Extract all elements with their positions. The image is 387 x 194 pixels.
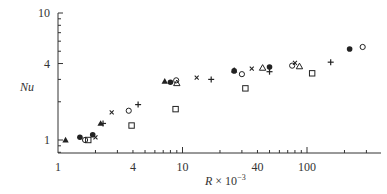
data-point-circle-filled [168,79,174,85]
x-axis-title: R × 10−3 [204,173,246,188]
y-axis-ticks [58,13,63,152]
data-point-cross-x [110,110,114,114]
nusselt-scatter-chart: 1410 141040100 Nu R × 10−3 [0,0,387,194]
data-point-square-open [129,123,134,128]
x-axis-title-rest: × 10 [212,174,237,188]
data-point-square-open [173,106,178,111]
x-tick-label: 100 [298,160,316,174]
x-tick-label: 40 [251,160,263,174]
data-point-square-open [243,86,248,91]
x-tick-label: 1 [55,160,61,174]
y-tick-label: 10 [38,6,50,20]
y-axis-title: Nu [19,80,34,94]
data-point-plus [328,59,334,65]
data-point-circle-filled [231,68,237,74]
data-point-circle-filled [77,135,83,141]
data-point-plus [135,102,141,108]
y-axis-tick-labels: 1410 [38,6,50,147]
x-axis-title-exp: −3 [237,173,246,182]
x-axis-tick-labels: 141040100 [55,160,316,174]
data-point-triangle-open [259,65,265,71]
data-point-circle-open [239,72,244,77]
x-tick-label: 4 [130,160,136,174]
data-point-circle-open [360,44,365,49]
axes [58,13,381,153]
data-point-triangle-open [296,63,302,69]
data-point-triangle-filled [62,137,68,143]
data-point-plus [208,76,214,82]
y-tick-label: 1 [44,133,50,147]
data-point-plus [267,69,273,75]
data-point-cross-x [250,67,254,71]
data-point-triangle-filled [162,78,168,84]
data-point-circle-open [126,108,131,113]
data-points [62,44,365,142]
data-point-square-open [309,71,314,76]
x-axis-ticks [95,147,366,153]
data-point-circle-filled [347,46,353,52]
data-point-cross-x [93,135,97,139]
y-tick-label: 4 [44,57,50,71]
data-point-cross-x [195,76,199,80]
data-point-cross-x [293,61,297,65]
x-tick-label: 10 [177,160,189,174]
